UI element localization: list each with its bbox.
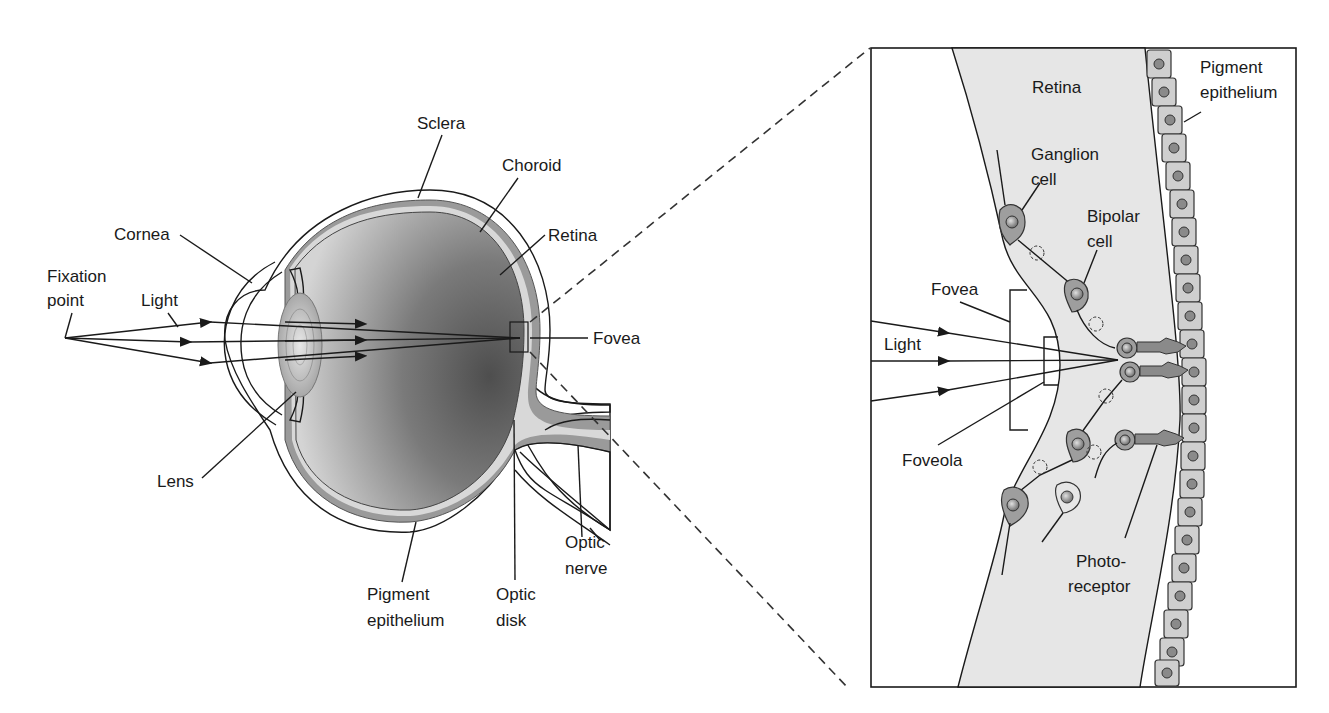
label-photoreceptor-2: receptor <box>1068 577 1131 596</box>
label-fovea-left: Fovea <box>593 329 641 348</box>
label-bipolar-1: Bipolar <box>1087 207 1140 226</box>
label-fovea-right: Fovea <box>931 280 979 299</box>
label-ganglion-2: cell <box>1031 170 1057 189</box>
label-pigment-1: Pigment <box>367 585 430 604</box>
zoom-connector-top <box>530 48 870 322</box>
eye-diagram: Fixation point Light Cornea Sclera Choro… <box>0 0 1329 713</box>
label-ganglion-1: Ganglion <box>1031 145 1099 164</box>
label-sclera: Sclera <box>417 114 466 133</box>
label-fixation-1: Fixation <box>47 267 107 286</box>
label-fixation-2: point <box>47 291 84 310</box>
label-foveola: Foveola <box>902 451 963 470</box>
vitreous-body <box>295 212 524 510</box>
label-light-right: Light <box>884 335 921 354</box>
zoom-connector-bottom <box>530 352 848 688</box>
optic-nerve-body <box>515 443 610 530</box>
label-optic-nerve-1: Optic <box>565 533 605 552</box>
label-pigment-right-1: Pigment <box>1200 58 1263 77</box>
magnified-retina-panel: Retina Pigment epithelium Ganglion cell … <box>871 48 1296 687</box>
label-pigment-2: epithelium <box>367 611 445 630</box>
label-optic-disk-1: Optic <box>496 585 536 604</box>
label-optic-disk-2: disk <box>496 611 527 630</box>
label-light-left: Light <box>141 291 178 310</box>
label-pigment-right-2: epithelium <box>1200 83 1278 102</box>
label-choroid: Choroid <box>502 156 562 175</box>
label-lens: Lens <box>157 472 194 491</box>
label-retina-left: Retina <box>548 226 598 245</box>
label-bipolar-2: cell <box>1087 232 1113 251</box>
label-optic-nerve-2: nerve <box>565 559 608 578</box>
label-cornea: Cornea <box>114 225 170 244</box>
label-retina-right: Retina <box>1032 78 1082 97</box>
label-photoreceptor-1: Photo- <box>1076 552 1126 571</box>
